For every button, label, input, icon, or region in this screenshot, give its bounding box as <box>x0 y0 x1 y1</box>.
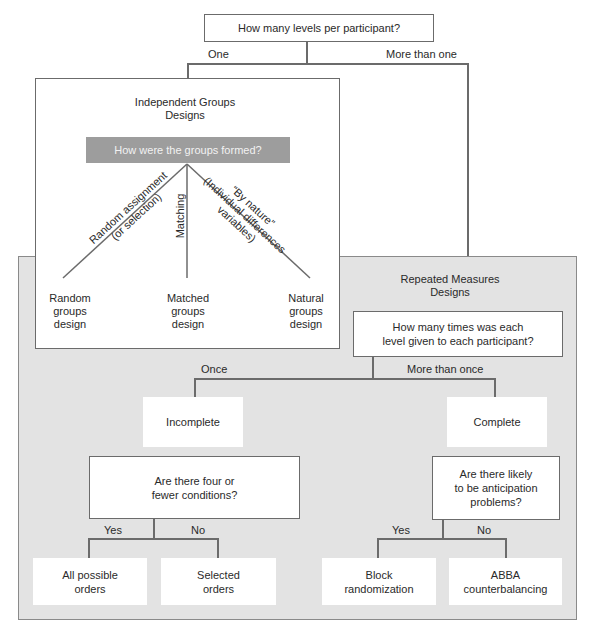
connector <box>377 538 506 540</box>
all-possible-orders-box: All possible orders <box>33 558 147 605</box>
branch-label-once: Once <box>201 363 227 376</box>
connector <box>217 538 219 558</box>
branch-label-matching: Matching <box>174 186 186 246</box>
selected-orders-text: Selected orders <box>197 568 240 596</box>
four-or-fewer-question-box: Are there four or fewer conditions? <box>89 456 300 519</box>
complete-box: Complete <box>447 397 547 447</box>
times-given-question-box: How many times was each level given to e… <box>353 311 563 357</box>
selected-orders-box: Selected orders <box>161 558 276 605</box>
connector <box>194 378 495 380</box>
connector <box>494 378 496 397</box>
connector <box>88 538 218 540</box>
block-randomization-text: Block randomization <box>344 568 413 596</box>
connector <box>194 378 196 397</box>
anticipation-question-box: Are there likely to be anticipation prob… <box>432 456 560 520</box>
repeated-measures-title: Repeated Measures Designs <box>380 273 520 299</box>
connector <box>505 538 507 558</box>
branch-label-no: No <box>477 524 491 537</box>
connector <box>88 538 90 558</box>
incomplete-box: Incomplete <box>143 397 243 447</box>
connector <box>377 538 379 558</box>
abba-counterbalancing-text: ABBA counterbalancing <box>464 568 548 596</box>
branch-label-yes: Yes <box>104 524 122 537</box>
abba-counterbalancing-box: ABBA counterbalancing <box>449 558 562 605</box>
natural-groups-design: Natural groups design <box>276 292 336 331</box>
all-possible-orders-text: All possible orders <box>62 568 118 596</box>
matched-groups-design: Matched groups design <box>156 292 220 331</box>
branch-label-yes: Yes <box>392 524 410 537</box>
branch-label-no: No <box>191 524 205 537</box>
times-given-question-text: How many times was each level given to e… <box>382 320 533 348</box>
four-or-fewer-question-text: Are there four or fewer conditions? <box>152 474 238 502</box>
connector <box>442 520 444 539</box>
random-groups-design: Random groups design <box>40 292 100 331</box>
connector <box>372 357 374 379</box>
complete-label: Complete <box>473 415 520 429</box>
connector <box>153 519 155 539</box>
block-randomization-box: Block randomization <box>322 558 436 605</box>
anticipation-question-text: Are there likely to be anticipation prob… <box>454 467 537 509</box>
branch-label-more-than-once: More than once <box>407 363 483 376</box>
incomplete-label: Incomplete <box>166 415 220 429</box>
